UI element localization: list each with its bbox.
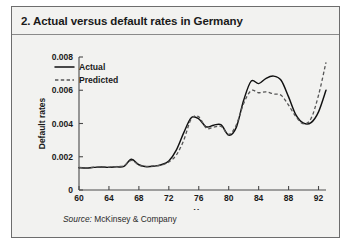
source-value: McKinsey & Company xyxy=(94,214,176,224)
chart-plot-area: 00.0020.0040.0060.008 606468727680848892… xyxy=(12,35,339,210)
x-tick-label: 68 xyxy=(134,193,144,203)
legend-label-predicted: Predicted xyxy=(79,75,118,85)
x-tick-label: 84 xyxy=(254,193,264,203)
line-chart: 00.0020.0040.0060.008 606468727680848892… xyxy=(12,35,339,210)
x-axis: 606468727680848892 xyxy=(74,186,326,203)
x-tick-label: 88 xyxy=(284,193,294,203)
chart-legend: ActualPredicted xyxy=(55,62,118,85)
y-tick-label: 0.006 xyxy=(52,85,74,95)
x-tick-label: 76 xyxy=(194,193,204,203)
figure-panel: 2. Actual versus default rates in German… xyxy=(11,6,340,238)
source-label: Source: xyxy=(63,214,92,224)
x-tick-label: 92 xyxy=(314,193,324,203)
y-axis-title: Default rates xyxy=(37,97,47,149)
y-axis: 00.0020.0040.0060.008 xyxy=(52,52,83,195)
x-axis-title: Year xyxy=(194,207,213,210)
page-title: 2. Actual versus default rates in German… xyxy=(21,15,243,27)
y-tick-label: 0 xyxy=(68,185,73,195)
y-tick-label: 0.004 xyxy=(52,119,74,129)
x-tick-label: 60 xyxy=(74,193,84,203)
source-note: Source: McKinsey & Company xyxy=(63,214,177,224)
x-tick-label: 80 xyxy=(224,193,234,203)
legend-label-actual: Actual xyxy=(79,62,105,72)
x-tick-label: 64 xyxy=(104,193,114,203)
y-tick-label: 0.008 xyxy=(52,52,74,62)
y-tick-label: 0.002 xyxy=(52,152,74,162)
x-tick-label: 72 xyxy=(164,193,174,203)
